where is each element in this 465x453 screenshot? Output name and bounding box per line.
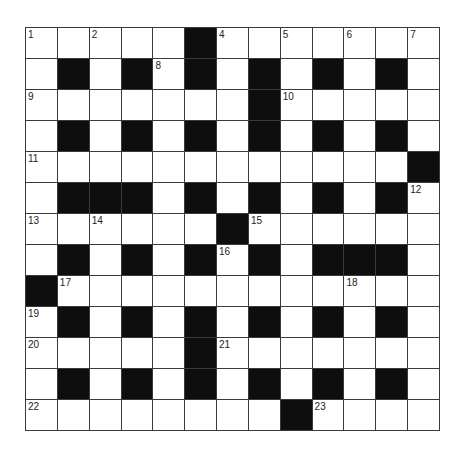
grid-cell[interactable]: 20 [26,338,57,368]
grid-cell[interactable] [344,90,375,120]
grid-cell[interactable] [185,152,216,182]
grid-cell[interactable] [58,338,89,368]
grid-cell[interactable] [249,338,280,368]
grid-cell[interactable]: 4 [217,28,248,58]
grid-cell[interactable] [58,214,89,244]
grid-cell[interactable] [281,245,312,275]
grid-cell[interactable] [376,90,407,120]
grid-cell[interactable] [90,400,121,430]
grid-cell[interactable] [122,400,153,430]
grid-cell[interactable] [281,214,312,244]
grid-cell[interactable] [153,90,184,120]
grid-cell[interactable] [185,276,216,306]
grid-cell[interactable] [344,183,375,213]
grid-cell[interactable]: 7 [408,28,439,58]
grid-cell[interactable] [313,276,344,306]
grid-cell[interactable] [408,369,439,399]
grid-cell[interactable] [26,59,57,89]
grid-cell[interactable]: 23 [313,400,344,430]
grid-cell[interactable] [153,400,184,430]
grid-cell[interactable] [281,121,312,151]
grid-cell[interactable] [344,152,375,182]
grid-cell[interactable]: 2 [90,28,121,58]
grid-cell[interactable] [344,338,375,368]
grid-cell[interactable] [408,307,439,337]
grid-cell[interactable]: 9 [26,90,57,120]
grid-cell[interactable] [90,59,121,89]
grid-cell[interactable]: 1 [26,28,57,58]
grid-cell[interactable] [122,152,153,182]
grid-cell[interactable]: 12 [408,183,439,213]
grid-cell[interactable] [153,214,184,244]
grid-cell[interactable] [122,90,153,120]
grid-cell[interactable] [313,214,344,244]
grid-cell[interactable] [153,276,184,306]
grid-cell[interactable] [153,369,184,399]
grid-cell[interactable] [344,400,375,430]
grid-cell[interactable] [408,121,439,151]
grid-cell[interactable]: 5 [281,28,312,58]
grid-cell[interactable] [153,183,184,213]
grid-cell[interactable]: 11 [26,152,57,182]
grid-cell[interactable] [217,90,248,120]
grid-cell[interactable] [344,307,375,337]
grid-cell[interactable] [26,369,57,399]
grid-cell[interactable]: 14 [90,214,121,244]
grid-cell[interactable] [249,276,280,306]
grid-cell[interactable] [217,183,248,213]
grid-cell[interactable] [408,400,439,430]
grid-cell[interactable]: 21 [217,338,248,368]
grid-cell[interactable] [344,369,375,399]
grid-cell[interactable] [217,59,248,89]
grid-cell[interactable] [90,338,121,368]
grid-cell[interactable] [153,245,184,275]
grid-cell[interactable] [217,307,248,337]
grid-cell[interactable] [185,214,216,244]
grid-cell[interactable] [408,245,439,275]
grid-cell[interactable] [408,214,439,244]
grid-cell[interactable] [153,338,184,368]
grid-cell[interactable] [344,121,375,151]
grid-cell[interactable] [344,59,375,89]
grid-cell[interactable] [217,276,248,306]
grid-cell[interactable]: 15 [249,214,280,244]
grid-cell[interactable] [313,90,344,120]
grid-cell[interactable] [153,152,184,182]
grid-cell[interactable]: 22 [26,400,57,430]
grid-cell[interactable] [217,400,248,430]
grid-cell[interactable] [122,214,153,244]
grid-cell[interactable] [249,28,280,58]
grid-cell[interactable] [26,245,57,275]
grid-cell[interactable]: 18 [344,276,375,306]
grid-cell[interactable] [376,214,407,244]
grid-cell[interactable] [58,152,89,182]
grid-cell[interactable] [376,276,407,306]
grid-cell[interactable] [217,369,248,399]
grid-cell[interactable] [249,400,280,430]
grid-cell[interactable] [281,369,312,399]
grid-cell[interactable] [90,90,121,120]
grid-cell[interactable] [249,152,280,182]
grid-cell[interactable] [313,152,344,182]
grid-cell[interactable] [90,307,121,337]
grid-cell[interactable] [90,152,121,182]
grid-cell[interactable]: 17 [58,276,89,306]
grid-cell[interactable] [185,400,216,430]
grid-cell[interactable] [153,28,184,58]
grid-cell[interactable] [281,183,312,213]
grid-cell[interactable] [58,28,89,58]
grid-cell[interactable] [281,152,312,182]
grid-cell[interactable] [408,276,439,306]
grid-cell[interactable] [58,400,89,430]
grid-cell[interactable] [408,59,439,89]
grid-cell[interactable] [408,90,439,120]
grid-cell[interactable] [90,369,121,399]
grid-cell[interactable] [376,28,407,58]
grid-cell[interactable] [408,338,439,368]
grid-cell[interactable] [122,28,153,58]
grid-cell[interactable] [185,90,216,120]
grid-cell[interactable] [90,121,121,151]
grid-cell[interactable] [344,214,375,244]
grid-cell[interactable] [153,121,184,151]
grid-cell[interactable]: 16 [217,245,248,275]
